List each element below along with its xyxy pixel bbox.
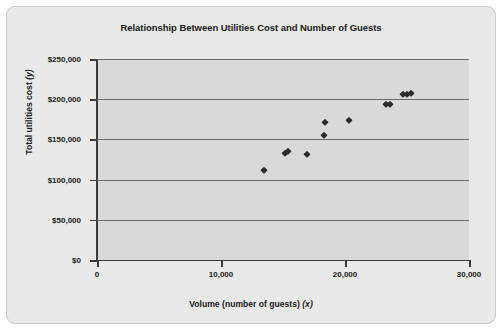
x-axis-title: Volume (number of guests) (x)	[7, 299, 495, 309]
x-axis-title-text: Volume (number of guests)	[189, 299, 302, 309]
y-axis-title: Total utilities cost (y)	[24, 42, 34, 182]
y-axis-tick	[90, 139, 97, 141]
grid-line	[97, 99, 469, 100]
grid-line	[97, 180, 469, 181]
x-axis-tick-label: 10,000	[191, 270, 251, 279]
x-axis-tick	[469, 260, 471, 267]
plot-area	[97, 59, 469, 260]
y-axis-tick	[90, 180, 97, 182]
x-axis-tick-label: 20,000	[315, 270, 375, 279]
grid-line	[97, 139, 469, 140]
x-axis-variable: (x)	[302, 299, 313, 309]
x-axis-tick	[345, 260, 347, 267]
x-axis-tick	[97, 260, 99, 267]
y-axis-tick	[90, 59, 97, 61]
x-axis-line	[96, 260, 470, 262]
y-axis-title-text: Total utilities cost	[24, 80, 34, 155]
y-axis-tick-label: $50,000	[23, 215, 81, 224]
x-axis-tick-label: 0	[67, 270, 127, 279]
x-axis-tick-label: 30,000	[439, 270, 499, 279]
y-axis-line	[96, 59, 98, 261]
grid-line	[97, 59, 469, 60]
y-axis-tick	[90, 260, 97, 262]
y-axis-variable: (y)	[24, 69, 34, 80]
y-axis-tick	[90, 99, 97, 101]
chart-card: Relationship Between Utilities Cost and …	[6, 6, 496, 324]
chart-title: Relationship Between Utilities Cost and …	[7, 22, 495, 33]
grid-line	[97, 220, 469, 221]
y-axis-tick	[90, 220, 97, 222]
x-axis-tick	[221, 260, 223, 267]
y-axis-tick-label: $0	[23, 256, 81, 265]
